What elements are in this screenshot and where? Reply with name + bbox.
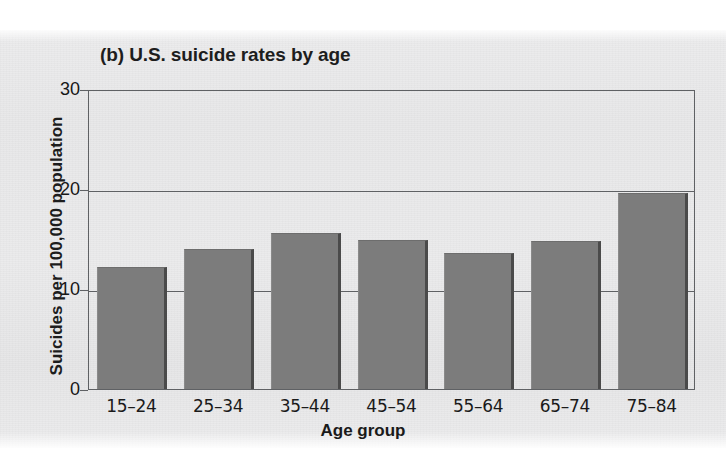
x-tick-label: 65–74 [515,396,615,416]
bar [271,233,341,389]
x-tick-label: 45–54 [342,396,442,416]
y-tick-mark [80,390,88,391]
y-axis-ticks: 0102030 [38,90,80,390]
gridline-20 [89,191,694,192]
x-axis-title: Age group [0,421,726,441]
bar [618,193,688,389]
bar [444,253,514,389]
x-tick-label: 55–64 [428,396,528,416]
chart-title: (b) U.S. suicide rates by age [100,44,351,66]
bar [358,240,428,389]
y-tick-label: 10 [40,279,80,300]
plot-area [88,90,695,390]
figure-page: (b) U.S. suicide rates by age Suicides p… [0,0,726,460]
bar [97,267,167,389]
x-tick-label: 15–24 [81,396,181,416]
x-tick-label: 35–44 [255,396,355,416]
y-tick-label: 20 [40,179,80,200]
y-tick-label: 0 [40,379,80,400]
y-tick-mark [80,90,88,91]
x-tick-label: 25–34 [168,396,268,416]
bar [184,249,254,389]
y-tick-mark [80,190,88,191]
y-tick-label: 30 [40,79,80,100]
bar [531,241,601,389]
y-tick-mark [80,290,88,291]
paper-top-edge [0,28,726,42]
x-tick-label: 75–84 [602,396,702,416]
